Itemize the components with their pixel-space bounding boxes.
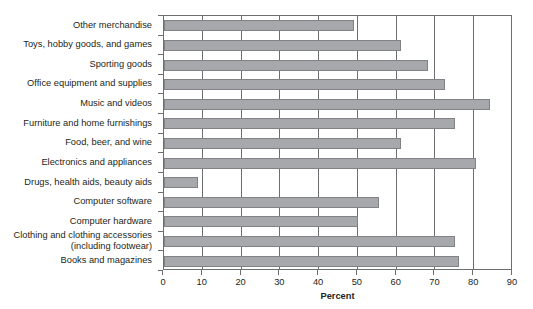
category-tick: [158, 113, 163, 114]
category-tick: [158, 93, 163, 94]
x-tick-60: [395, 270, 396, 275]
x-tick-label: 10: [187, 277, 217, 288]
x-tick-label: 90: [497, 277, 527, 288]
category-tick: [158, 152, 163, 153]
category-tick: [158, 211, 163, 212]
bar: [164, 138, 401, 149]
category-tick: [158, 74, 163, 75]
gridline-80: [473, 16, 474, 269]
category-label: Electronics and appliances: [41, 157, 152, 167]
category-label: Sporting goods: [89, 59, 152, 69]
bar: [164, 40, 401, 51]
category-tick: [158, 231, 163, 232]
category-label: Toys, hobby goods, and games: [23, 39, 152, 49]
category-label: Drugs, health aids, beauty aids: [24, 177, 152, 187]
x-axis-title: Percent: [163, 291, 512, 301]
category-label: Computer hardware: [70, 216, 152, 226]
category-axis-labels: Other merchandiseToys, hobby goods, and …: [0, 15, 158, 270]
category-tick: [158, 192, 163, 193]
bar: [164, 118, 455, 129]
bar: [164, 20, 354, 31]
category-tick: [158, 172, 163, 173]
bar: [164, 60, 428, 71]
category-label: Computer software: [73, 196, 152, 206]
bar: [164, 216, 358, 227]
x-tick-80: [472, 270, 473, 275]
x-tick-label: 0: [148, 277, 178, 288]
category-label: Furniture and home furnishings: [23, 118, 152, 128]
bar: [164, 79, 445, 90]
category-tick: [158, 133, 163, 134]
x-tick-40: [317, 270, 318, 275]
x-tick-70: [433, 270, 434, 275]
category-tick: [158, 35, 163, 36]
category-label: Books and magazines: [61, 255, 152, 265]
bar: [164, 197, 379, 208]
bar: [164, 236, 455, 247]
category-tick: [158, 54, 163, 55]
gridline-70: [434, 16, 435, 269]
x-tick-label: 30: [264, 277, 294, 288]
bar: [164, 158, 476, 169]
x-tick-10: [201, 270, 202, 275]
bar: [164, 256, 459, 267]
x-tick-20: [240, 270, 241, 275]
bar-chart: Other merchandiseToys, hobby goods, and …: [0, 0, 533, 309]
category-label: Office equipment and supplies: [27, 78, 152, 88]
x-tick-label: 80: [458, 277, 488, 288]
x-tick-50: [356, 270, 357, 275]
x-tick-label: 70: [419, 277, 449, 288]
x-tick-label: 20: [226, 277, 256, 288]
category-tick: [158, 250, 163, 251]
category-label: Clothing and clothing accessories (inclu…: [0, 230, 152, 251]
bar: [164, 177, 198, 188]
x-tick-90: [511, 270, 512, 275]
category-label: Other merchandise: [73, 20, 152, 30]
x-tick-30: [278, 270, 279, 275]
category-label: Food, beer, and wine: [65, 137, 152, 147]
category-label: Music and videos: [80, 98, 152, 108]
category-tick: [158, 15, 163, 16]
x-tick-0: [162, 270, 163, 275]
bar: [164, 99, 490, 110]
plot-area: [163, 15, 512, 270]
x-tick-label: 40: [303, 277, 333, 288]
x-tick-label: 50: [342, 277, 372, 288]
x-tick-label: 60: [381, 277, 411, 288]
